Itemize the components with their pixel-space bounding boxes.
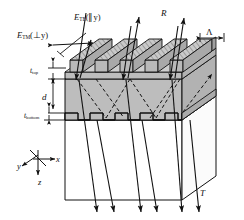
thickness-dimensions: [44, 62, 66, 120]
label-t-top: ttop: [30, 67, 38, 76]
label-axis-x: x: [56, 155, 60, 164]
label-core-thickness: d: [42, 93, 47, 102]
label-axis-z: z: [38, 178, 41, 187]
label-grating-period: Λ: [206, 28, 213, 37]
label-axis-y: y: [17, 162, 21, 171]
label-e-tm: ETM(⊥y): [17, 31, 48, 40]
label-reflection: R: [161, 9, 167, 18]
coordinate-axes: [22, 150, 55, 175]
label-e-te: ETE(∥y): [74, 13, 101, 22]
label-transmission: T: [200, 189, 205, 198]
label-t-bottom: tbottom: [24, 112, 39, 121]
